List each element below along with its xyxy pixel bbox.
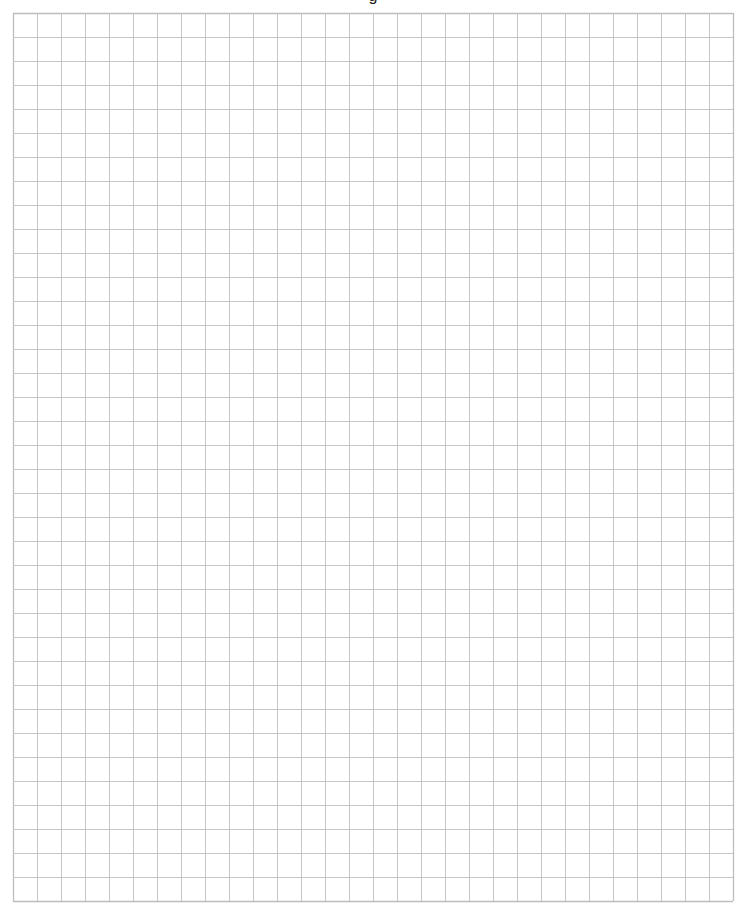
- graph-grid: [0, 0, 746, 911]
